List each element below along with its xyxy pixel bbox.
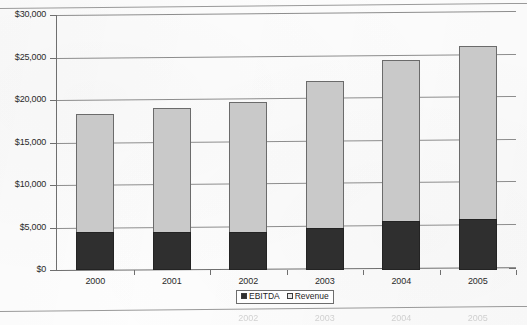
y-axis-tick	[50, 15, 56, 16]
x-axis-label-2000: 2000	[65, 276, 125, 286]
x-axis-tick	[134, 270, 135, 275]
y-axis-tick	[50, 100, 56, 101]
x-axis-label-2003: 2003	[295, 276, 355, 286]
chart-legend: EBITDA Revenue	[236, 290, 334, 304]
x-axis-tick	[363, 270, 364, 275]
plot-area	[57, 15, 516, 270]
x-axis-tick	[440, 270, 441, 275]
x-axis-tick	[516, 270, 517, 275]
x-axis-label-2002: 2002	[218, 276, 278, 286]
y-axis-tick	[50, 58, 56, 59]
bar-segment-ebitda	[76, 232, 114, 270]
bar-segment-ebitda	[382, 221, 420, 270]
x-axis-label-2001: 2001	[142, 276, 202, 286]
bar-segment-ebitda	[229, 232, 267, 270]
legend-item-ebitda: EBITDA	[241, 292, 280, 301]
x-axis-tick	[210, 270, 211, 275]
black-square-swatch-icon	[241, 293, 247, 299]
legend-item-revenue: Revenue	[287, 292, 329, 301]
y-axis-tick	[50, 143, 56, 144]
y-axis-tick	[50, 185, 56, 186]
bar-segment-ebitda	[153, 232, 191, 270]
legend-label-ebitda: EBITDA	[249, 292, 280, 301]
x-axis-label-2005: 2005	[448, 276, 508, 286]
y-axis-tick	[50, 228, 56, 229]
light-square-swatch-icon	[287, 293, 293, 299]
bar-segment-ebitda	[459, 219, 497, 270]
scanned-page: $0$5,000$10,000$15,000$20,000$25,000$30,…	[0, 0, 527, 325]
legend-label-revenue: Revenue	[295, 292, 329, 301]
x-axis-label-2004: 2004	[371, 276, 431, 286]
stacked-bar-chart: $0$5,000$10,000$15,000$20,000$25,000$30,…	[0, 0, 527, 325]
bar-segment-ebitda	[306, 228, 344, 271]
x-axis-tick	[287, 270, 288, 275]
y-axis-tick	[50, 270, 56, 271]
